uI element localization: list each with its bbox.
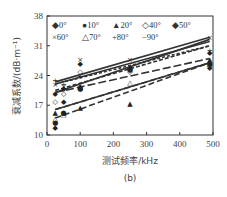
y-tick-label: 17 — [34, 100, 44, 110]
legend-item: ▲20° — [112, 20, 132, 30]
data-point: − — [127, 60, 133, 68]
y-axis-label: 衰减系数/(dB·m⁻¹) — [11, 37, 22, 115]
data-point: ◇ — [53, 98, 59, 106]
data-point: − — [52, 77, 58, 85]
data-point: − — [61, 81, 67, 89]
legend-item: ◆50° — [172, 20, 191, 30]
data-point: ▲ — [78, 104, 84, 112]
data-points: ◆◆◆◆◆●●●●●▲▲▲▲▲◇◇◇◇◇◆◆◆◆◆×××××△△△△△+++++… — [52, 34, 213, 131]
data-point: ◆ — [61, 98, 67, 106]
attenuation-chart: 01002003004005001017243138 ◆◆◆◆◆●●●●●▲▲▲… — [0, 0, 227, 197]
data-point: − — [77, 73, 83, 81]
data-point: △ — [127, 79, 133, 87]
data-point: △ — [207, 60, 213, 68]
y-tick-label: 38 — [34, 11, 44, 21]
x-tick-label: 200 — [107, 139, 121, 149]
legend-item: ●10° — [82, 20, 99, 30]
data-point: △ — [78, 83, 84, 91]
legend-item: −90° — [142, 32, 159, 42]
legend-item: ◇40° — [142, 20, 161, 30]
x-tick-label: 100 — [73, 139, 87, 149]
legend: ◆0°●10°▲20°◇40°◆50°×60°△70°+80°−90° — [52, 20, 191, 42]
caption: (b) — [124, 173, 137, 183]
x-tick-label: 400 — [173, 139, 187, 149]
data-point: △ — [53, 115, 59, 123]
legend-item: ◆0° — [52, 20, 67, 30]
data-point: ▲ — [127, 100, 133, 108]
x-tick-label: 0 — [45, 139, 50, 149]
data-point: ◆ — [53, 90, 59, 98]
data-point: − — [207, 47, 213, 55]
legend-item: △70° — [82, 32, 101, 42]
data-point: × — [77, 56, 83, 64]
x-tick-label: 300 — [140, 139, 154, 149]
legend-item: +80° — [112, 32, 129, 42]
x-tick-label: 500 — [206, 139, 220, 149]
y-tick-label: 24 — [34, 71, 44, 81]
legend-item: ×60° — [52, 32, 69, 42]
data-point: △ — [61, 111, 67, 119]
y-tick-label: 31 — [34, 41, 43, 51]
x-axis-label: 测试频率/kHz — [102, 155, 158, 166]
data-point: × — [207, 34, 213, 42]
y-tick-label: 10 — [34, 130, 44, 140]
